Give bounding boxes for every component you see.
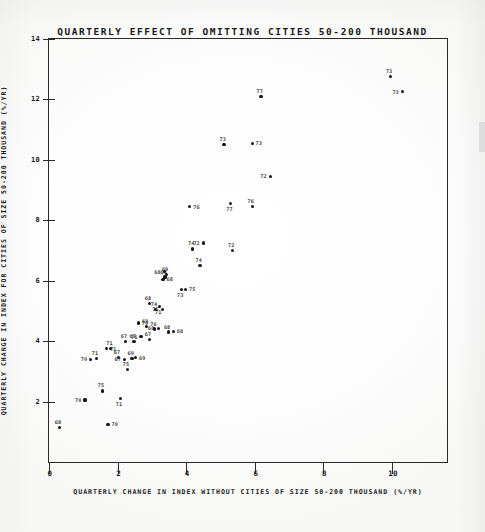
data-point-marker	[134, 356, 137, 359]
data-point-label: 67	[121, 333, 127, 339]
data-point-label: 71	[116, 401, 122, 407]
data-point-marker	[202, 241, 205, 244]
x-axis-tick-label: 4	[185, 469, 190, 478]
scan-edge-artifact	[479, 122, 485, 152]
x-axis-tick: 6	[255, 462, 256, 474]
data-point-marker	[124, 340, 127, 343]
data-point-marker	[132, 340, 135, 343]
data-point-label: 77	[226, 206, 232, 212]
data-point-marker	[259, 95, 262, 98]
data-point-marker	[401, 90, 404, 93]
data-point-label: 73	[386, 68, 392, 74]
plot-area: 2468101214024681068707570717570717171676…	[49, 39, 447, 462]
data-point-marker	[148, 338, 151, 341]
y-axis-tick: 14	[43, 39, 55, 40]
data-point-marker	[105, 347, 108, 350]
data-point-marker	[95, 357, 98, 360]
data-point-label: 70	[81, 356, 87, 362]
data-point-label: 69	[142, 318, 148, 324]
data-point-label: 73	[392, 89, 398, 95]
data-point-marker	[251, 142, 254, 145]
data-point-label: 68	[148, 325, 154, 331]
y-axis-tick: 10	[43, 160, 55, 161]
data-point-marker	[106, 423, 109, 426]
chart-title: QUARTERLY EFFECT OF OMITTING CITIES 50-2…	[0, 26, 485, 37]
y-axis-title: QUARTERLY CHANGE IN INDEX FOR CITIES OF …	[0, 38, 12, 463]
data-point-marker	[83, 398, 86, 401]
y-axis-tick-label: 14	[31, 35, 40, 43]
data-point-marker	[389, 75, 392, 78]
data-point-marker	[251, 205, 254, 208]
data-point-label: 77	[257, 88, 263, 94]
y-axis-tick: 4	[43, 341, 55, 342]
y-axis-tick-label: 4	[35, 337, 40, 345]
data-point-marker	[180, 288, 183, 291]
data-point-label: 70	[112, 421, 118, 427]
x-axis-tick-label: 10	[388, 469, 398, 478]
x-axis-tick-label: 8	[322, 469, 327, 478]
data-point-label: 68	[164, 324, 170, 330]
data-point-label: 72	[228, 242, 234, 248]
data-point-label: 68	[177, 328, 183, 334]
data-point-label: 75	[189, 286, 195, 292]
y-axis-tick: 2	[43, 402, 55, 403]
x-axis-tick-label: 0	[48, 469, 53, 478]
data-point-marker	[161, 308, 164, 311]
data-point-label: 74	[195, 257, 201, 263]
x-axis-title: QUARTERLY CHANGE IN INDEX WITHOUT CITIES…	[48, 488, 448, 496]
data-point-label: 73	[177, 292, 183, 298]
y-axis-tick-label: 8	[35, 216, 40, 224]
y-axis-tick: 6	[43, 281, 55, 282]
data-point-label: 75	[123, 361, 129, 367]
data-point-label: 67	[114, 349, 120, 355]
y-axis-tick-label: 2	[35, 398, 40, 406]
data-point-label: 71	[106, 340, 112, 346]
data-point-marker	[172, 330, 175, 333]
data-point-marker	[123, 358, 126, 361]
data-point-marker	[191, 247, 194, 250]
data-point-marker	[148, 302, 151, 305]
data-point-marker	[119, 397, 122, 400]
x-axis-tick-label: 2	[116, 469, 121, 478]
data-point-label: 68	[154, 269, 160, 275]
plot-frame: 2468101214024681068707570717570717171676…	[48, 38, 448, 463]
x-axis-tick: 0	[49, 462, 50, 474]
data-point-marker	[188, 205, 191, 208]
data-point-marker	[231, 249, 234, 252]
data-point-label: 72	[193, 240, 199, 246]
x-axis-tick: 4	[186, 462, 187, 474]
data-point-marker	[101, 389, 104, 392]
x-axis-tick: 8	[323, 462, 324, 474]
data-point-label: 72	[260, 173, 266, 179]
x-axis-tick: 2	[118, 462, 119, 474]
data-point-label: 73	[256, 140, 262, 146]
data-point-label: 68	[55, 419, 61, 425]
data-point-marker	[269, 175, 272, 178]
data-point-marker	[184, 288, 187, 291]
data-point-label: 75	[152, 306, 158, 312]
data-point-label: 76	[193, 204, 199, 210]
data-point-marker	[229, 202, 232, 205]
x-axis-tick: 10	[392, 462, 393, 474]
data-point-marker	[198, 264, 201, 267]
data-point-marker	[126, 368, 129, 371]
data-point-label: 67	[114, 356, 120, 362]
data-point-label: 71	[92, 350, 98, 356]
data-point-label: 73	[219, 136, 225, 142]
data-point-marker	[139, 335, 142, 338]
data-point-marker	[157, 327, 160, 330]
data-point-marker	[89, 358, 92, 361]
y-axis-tick-label: 6	[35, 277, 40, 285]
y-axis-tick: 12	[43, 99, 55, 100]
data-point-label: 76	[248, 198, 254, 204]
data-point-label: 70	[75, 397, 81, 403]
data-point-label: 75	[98, 382, 104, 388]
data-point-label: 76	[131, 334, 137, 340]
y-axis-tick-label: 12	[31, 95, 40, 103]
data-point-marker	[137, 321, 140, 324]
data-point-label: 67	[145, 331, 151, 337]
data-point-marker	[58, 426, 61, 429]
data-point-label: 68	[166, 276, 172, 282]
y-axis-tick: 8	[43, 220, 55, 221]
y-axis-tick-label: 10	[31, 156, 40, 164]
